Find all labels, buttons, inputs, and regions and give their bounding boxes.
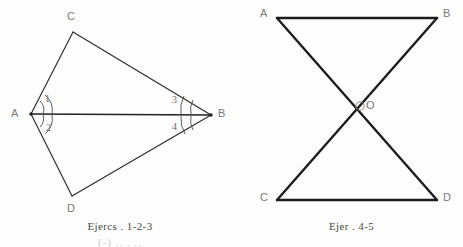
vertex-label-a: A [11,108,19,119]
caption-right: Ejer . 4-5 [240,220,463,232]
angle-arc-2-inner [40,115,44,127]
figure-quadrilateral-with-diagonal: A B C D 1 2 3 4 Ejercs . 1-2-3 (-) .. . … [0,0,240,247]
scanned-geometry-page: A B C D 1 2 3 4 Ejercs . 1-2-3 (-) .. . … [0,0,463,247]
vertex-label-a: A [260,8,268,19]
quadrilateral-drawing [0,0,240,247]
angle-number-4: 4 [172,122,177,132]
segment-bd [72,115,211,196]
vertex-label-c: C [67,11,75,22]
vertex-label-c: C [260,192,268,203]
segment-ab-diagonal [31,114,211,115]
bowtie-drawing [240,0,463,247]
vertex-label-d: D [443,192,451,203]
angle-arc-3-inner [191,100,193,114]
vertex-dot-a [29,112,32,115]
vertex-dot-b [209,113,212,116]
vertex-label-d: D [67,203,75,214]
angle-number-2: 2 [46,123,51,133]
angle-arc-4-inner [191,116,193,130]
segment-cb [73,32,211,115]
angle-number-1: 1 [45,94,50,104]
segment-da [31,114,72,196]
figure-bowtie-intersecting-triangles: A B C D O Ejer . 4-5 [240,0,463,247]
vertex-label-b: B [218,108,226,119]
vertex-label-b: B [443,8,451,19]
vertex-label-o: O [366,100,375,111]
caption-left: Ejercs . 1-2-3 [0,220,240,232]
angle-number-3: 3 [172,95,177,105]
angle-arc-1-inner [40,101,44,114]
faint-cut-off-text: (-) .. . .. [0,236,240,247]
segment-ac [31,32,73,114]
